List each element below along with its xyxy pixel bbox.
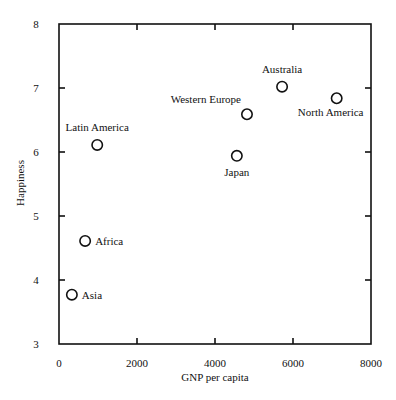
circle-marker-icon: [67, 290, 77, 300]
circle-marker-icon: [232, 151, 242, 161]
point-label: Latin America: [66, 121, 129, 133]
data-point: North America: [298, 93, 364, 118]
plot-frame: [59, 24, 371, 344]
y-tick-label: 4: [33, 274, 39, 286]
axis-tick-labels: 02000400060008000345678: [33, 18, 382, 369]
data-point: Africa: [80, 235, 123, 247]
scatter-chart: 02000400060008000345678 AsiaAfricaLatin …: [0, 0, 396, 400]
data-point: Asia: [67, 289, 102, 301]
y-tick-label: 7: [33, 82, 39, 94]
x-tick-label: 0: [56, 357, 62, 369]
x-tick-label: 2000: [126, 357, 149, 369]
point-label: Asia: [82, 289, 102, 301]
y-tick-label: 6: [33, 146, 39, 158]
x-tick-label: 8000: [360, 357, 383, 369]
data-point: Western Europe: [171, 93, 252, 119]
y-tick-label: 3: [33, 338, 39, 350]
x-tick-label: 6000: [282, 357, 305, 369]
x-axis-title: GNP per capita: [181, 371, 249, 383]
circle-marker-icon: [80, 236, 90, 246]
point-label: North America: [298, 106, 364, 118]
data-point: Australia: [262, 63, 302, 92]
data-point: Japan: [224, 151, 250, 178]
circle-marker-icon: [92, 140, 102, 150]
circle-marker-icon: [242, 109, 252, 119]
axis-ticks: [59, 24, 371, 344]
y-axis-title: Happiness: [14, 160, 26, 206]
circle-marker-icon: [277, 82, 287, 92]
data-point: Latin America: [66, 121, 129, 150]
point-label: Western Europe: [171, 93, 241, 105]
x-tick-label: 4000: [204, 357, 227, 369]
point-label: Japan: [224, 166, 250, 178]
circle-marker-icon: [331, 93, 341, 103]
data-points: AsiaAfricaLatin AmericaJapanWestern Euro…: [66, 63, 364, 301]
y-tick-label: 8: [33, 18, 39, 30]
point-label: Australia: [262, 63, 302, 75]
point-label: Africa: [95, 235, 123, 247]
y-tick-label: 5: [33, 210, 39, 222]
